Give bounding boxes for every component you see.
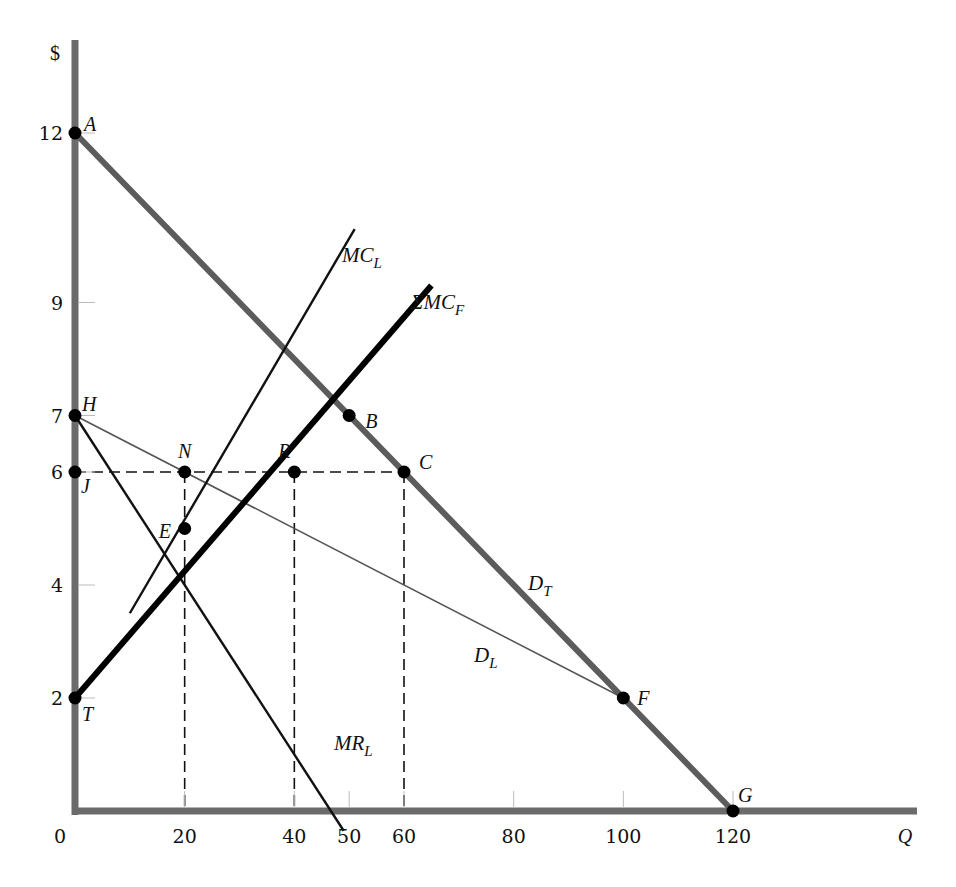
x-axis-title: Q <box>898 825 913 847</box>
point-e <box>178 522 191 535</box>
point-n <box>178 466 191 479</box>
point-label-e: E <box>158 520 171 542</box>
x-tick-label: 60 <box>392 825 416 847</box>
point-h <box>69 409 82 422</box>
y-tick-label: 2 <box>51 687 63 709</box>
curve-label: MCL <box>341 243 382 271</box>
point-label-f: F <box>636 687 650 709</box>
x-tick-label: 120 <box>715 825 751 847</box>
point-f <box>617 692 630 705</box>
chart-canvas: 246791202040506080100120$Q ABCEFGHJNRT D… <box>0 0 956 887</box>
point-label-n: N <box>177 440 193 462</box>
curve-label: DL <box>473 643 498 671</box>
y-tick-label: 9 <box>51 292 63 314</box>
point-label-b: B <box>365 410 377 432</box>
curve-label: DT <box>527 571 553 599</box>
y-tick-label: 7 <box>51 405 63 427</box>
point-label-t: T <box>82 703 95 725</box>
y-tick-label: 12 <box>39 122 63 144</box>
x-tick-label: 20 <box>173 825 197 847</box>
x-tick-label: 80 <box>502 825 526 847</box>
y-tick-label: 6 <box>51 461 63 483</box>
point-t <box>69 692 82 705</box>
point-label-c: C <box>419 451 433 473</box>
y-tick-label: 4 <box>51 574 63 596</box>
curve-sigma-mc-f <box>75 286 431 698</box>
point-label-j: J <box>81 475 91 497</box>
y-axis-title: $ <box>50 42 60 64</box>
x-tick-label: 0 <box>54 825 66 847</box>
point-a <box>69 127 82 140</box>
curve-label: MRL <box>333 731 373 759</box>
point-c <box>398 466 411 479</box>
curve-label: ΣMCF <box>410 290 465 318</box>
point-b <box>343 409 356 422</box>
point-j <box>69 466 82 479</box>
point-label-g: G <box>738 784 753 806</box>
point-label-r: R <box>277 440 290 462</box>
point-label-h: H <box>81 393 98 415</box>
point-g <box>727 805 740 818</box>
axes: 246791202040506080100120$Q <box>39 40 917 847</box>
curve-d-l <box>75 416 623 699</box>
x-tick-label: 40 <box>282 825 306 847</box>
point-r <box>288 466 301 479</box>
curve-labels: DTDLMRLMCLΣMCF <box>333 243 553 759</box>
x-tick-label: 100 <box>605 825 641 847</box>
curve-mc-l <box>130 229 355 613</box>
point-label-a: A <box>82 113 97 135</box>
price-leadership-chart: 246791202040506080100120$Q ABCEFGHJNRT D… <box>0 0 956 887</box>
